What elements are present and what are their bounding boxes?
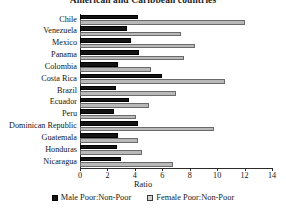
- chart-legend: Male Poor:Non-Poor Female Poor:Non-Poor: [0, 193, 286, 202]
- category-label-costa-rica: Costa Rica: [0, 73, 77, 85]
- chart-title: American and Caribbean countries: [0, 0, 286, 3]
- category-label-peru: Peru: [0, 108, 77, 120]
- bar-male-chile[interactable]: [80, 15, 138, 20]
- bar-female-nicaragua[interactable]: [80, 162, 173, 167]
- category-label-guatemala: Guatemala: [0, 132, 77, 144]
- bar-male-brazil[interactable]: [80, 86, 116, 91]
- bar-male-colombia[interactable]: [80, 62, 118, 67]
- chart-row: Costa Rica: [80, 73, 272, 85]
- category-label-honduras: Honduras: [0, 144, 77, 156]
- legend-label-female: Female Poor:Non-Poor: [156, 193, 234, 202]
- x-tick-label-2: 2: [105, 171, 109, 180]
- bar-female-colombia[interactable]: [80, 67, 151, 72]
- legend-item-female[interactable]: Female Poor:Non-Poor: [147, 193, 234, 202]
- category-label-dominican-republic: Dominican Republic: [0, 120, 77, 132]
- chart-row: Peru: [80, 109, 272, 121]
- chart-row: Nicaragua: [80, 156, 272, 168]
- legend-swatch-female-icon: [147, 195, 153, 201]
- bar-female-chile[interactable]: [80, 20, 245, 25]
- chart-row: Panama: [80, 50, 272, 62]
- legend-label-male: Male Poor:Non-Poor: [61, 193, 131, 202]
- bar-female-peru[interactable]: [80, 115, 136, 120]
- plot-area: ChileVenezuelaMexicoPanamaColombiaCosta …: [80, 14, 272, 168]
- bar-male-guatemala[interactable]: [80, 133, 118, 138]
- chart-row: Venezuela: [80, 26, 272, 38]
- category-label-brazil: Brazil: [0, 85, 77, 97]
- bar-female-panama[interactable]: [80, 56, 184, 61]
- bar-male-ecuador[interactable]: [80, 98, 129, 103]
- legend-swatch-male-icon: [52, 195, 58, 201]
- bar-female-mexico[interactable]: [80, 44, 195, 49]
- x-tick-label-12: 12: [240, 171, 248, 180]
- category-label-colombia: Colombia: [0, 61, 77, 73]
- chart-container: American and Caribbean countries ChileVe…: [0, 0, 286, 211]
- bar-male-honduras[interactable]: [80, 145, 117, 150]
- category-label-panama: Panama: [0, 49, 77, 61]
- bar-female-ecuador[interactable]: [80, 103, 149, 108]
- x-axis-line: [80, 168, 272, 169]
- legend-item-male[interactable]: Male Poor:Non-Poor: [52, 193, 131, 202]
- chart-row: Colombia: [80, 61, 272, 73]
- x-tick-label-6: 6: [160, 171, 164, 180]
- category-label-ecuador: Ecuador: [0, 96, 77, 108]
- bar-male-mexico[interactable]: [80, 38, 131, 43]
- bar-male-peru[interactable]: [80, 109, 114, 114]
- bar-female-venezuela[interactable]: [80, 32, 181, 37]
- chart-row: Mexico: [80, 38, 272, 50]
- chart-row: Brazil: [80, 85, 272, 97]
- category-label-mexico: Mexico: [0, 37, 77, 49]
- x-axis-label: Ratio: [0, 180, 286, 189]
- category-label-nicaragua: Nicaragua: [0, 156, 77, 168]
- chart-row: Chile: [80, 14, 272, 26]
- bar-female-costa-rica[interactable]: [80, 79, 225, 84]
- bar-female-honduras[interactable]: [80, 150, 142, 155]
- category-label-venezuela: Venezuela: [0, 25, 77, 37]
- bar-male-costa-rica[interactable]: [80, 74, 162, 79]
- bar-male-dominican-republic[interactable]: [80, 121, 138, 126]
- chart-row: Guatemala: [80, 132, 272, 144]
- x-tick-label-14: 14: [268, 171, 276, 180]
- bar-female-brazil[interactable]: [80, 91, 176, 96]
- x-tick-label-4: 4: [133, 171, 137, 180]
- bar-female-dominican-republic[interactable]: [80, 127, 214, 132]
- bar-male-panama[interactable]: [80, 50, 139, 55]
- bar-male-nicaragua[interactable]: [80, 157, 121, 162]
- category-label-chile: Chile: [0, 14, 77, 26]
- chart-row: Ecuador: [80, 97, 272, 109]
- chart-row: Honduras: [80, 144, 272, 156]
- bar-female-guatemala[interactable]: [80, 138, 138, 143]
- x-tick-label-0: 0: [78, 171, 82, 180]
- bar-male-venezuela[interactable]: [80, 26, 127, 31]
- x-tick-label-10: 10: [213, 171, 221, 180]
- x-tick-label-8: 8: [188, 171, 192, 180]
- chart-row: Dominican Republic: [80, 121, 272, 133]
